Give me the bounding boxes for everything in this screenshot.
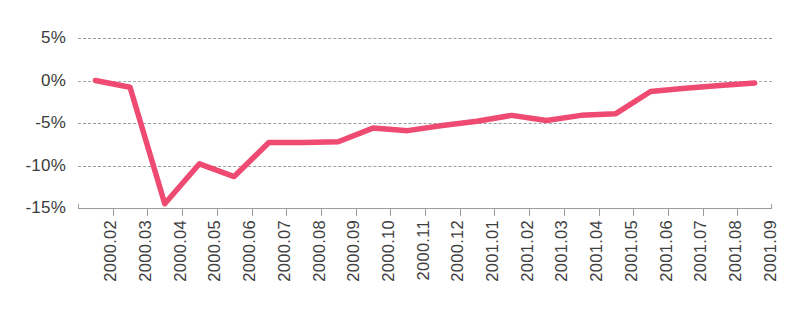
x-tick-label: 2000.04 (171, 220, 190, 282)
x-tick-label: 2001.05 (622, 220, 641, 282)
line-chart: 5%0%-5%-10%-15% 2000.022000.032000.04200… (0, 0, 809, 322)
x-tick-label: 2000.06 (240, 220, 259, 282)
x-tick-label: 2001.04 (587, 220, 606, 282)
x-tick-label: 2001.01 (483, 220, 502, 282)
x-tick-label: 2000.12 (448, 220, 467, 282)
x-tick-label: 2000.09 (344, 220, 363, 282)
x-tick-label: 2000.05 (205, 220, 224, 282)
x-tick-label: 2000.08 (310, 220, 329, 282)
x-tick-label: 2001.08 (726, 220, 745, 282)
x-tick-label: 2000.02 (101, 220, 120, 282)
x-tick-label: 2000.03 (136, 220, 155, 282)
x-tick-label: 2001.07 (691, 220, 710, 282)
x-tick-label: 2001.02 (518, 220, 537, 282)
x-tick-label: 2000.10 (379, 220, 398, 282)
x-axis-labels: 2000.022000.032000.042000.052000.062000.… (0, 0, 809, 322)
x-tick-label: 2001.06 (657, 220, 676, 282)
x-tick-label: 2000.11 (414, 220, 433, 281)
x-tick-label: 2001.09 (761, 220, 780, 282)
x-tick-label: 2000.07 (275, 220, 294, 282)
x-tick-label: 2001.03 (552, 220, 571, 282)
